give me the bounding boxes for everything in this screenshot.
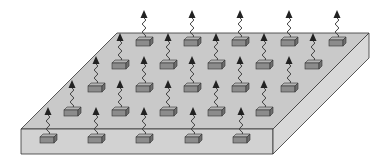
diagram-canvas <box>0 0 390 165</box>
sensor-box-icon <box>232 40 246 46</box>
sensor-box-icon <box>184 40 198 46</box>
sensor-box-icon <box>256 63 270 69</box>
sensor-box-icon <box>281 40 295 46</box>
sensor-box-icon <box>160 110 174 116</box>
sensor-box-icon <box>136 137 150 143</box>
sensor-box-icon <box>208 63 222 69</box>
sensor-box-icon <box>233 137 247 143</box>
arrow-up-icon <box>286 10 293 18</box>
sensor-node <box>136 10 153 46</box>
sensor-box-icon <box>112 110 126 116</box>
arrow-up-icon <box>189 10 196 18</box>
sensor-box-icon <box>136 86 150 92</box>
sensor-box-icon <box>136 40 150 46</box>
sensor-box-icon <box>184 86 198 92</box>
sensor-box-icon <box>329 40 343 46</box>
sensor-box-icon <box>88 86 102 92</box>
sensor-node <box>232 10 249 46</box>
sensor-network-diagram <box>0 0 390 165</box>
sensor-box-icon <box>305 63 319 69</box>
arrow-up-icon <box>141 10 148 18</box>
sensor-box-icon <box>256 110 270 116</box>
sensor-box-icon <box>160 63 174 69</box>
sensor-box-icon <box>112 63 126 69</box>
sensor-box-icon <box>64 110 78 116</box>
sensor-node <box>329 10 346 46</box>
sensor-box-icon <box>185 137 199 143</box>
sensor-box-icon <box>88 137 102 143</box>
sensor-node <box>184 10 201 46</box>
sensor-box-icon <box>40 137 54 143</box>
sensor-box-icon <box>232 86 246 92</box>
sensor-box-icon <box>208 110 222 116</box>
sensor-node <box>281 10 298 46</box>
arrow-up-icon <box>237 10 244 18</box>
sensor-box-icon <box>281 86 295 92</box>
arrow-up-icon <box>334 10 341 18</box>
